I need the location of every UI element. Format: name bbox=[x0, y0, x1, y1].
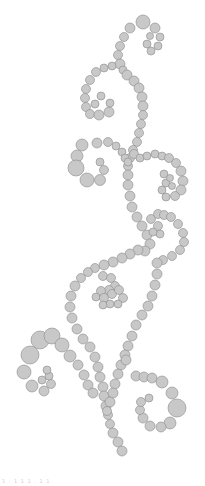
rhinestone-dot bbox=[80, 173, 94, 187]
rhinestone-dot bbox=[117, 253, 127, 263]
rhinestone-dot bbox=[88, 388, 98, 398]
rhinestone-dot bbox=[176, 246, 185, 255]
rhinestone-dot bbox=[105, 397, 115, 407]
rhinestone-dot bbox=[139, 111, 148, 120]
rhinestone-dot bbox=[152, 258, 162, 268]
rhinestone-dot bbox=[90, 352, 100, 362]
rhinestone-dot bbox=[167, 175, 174, 182]
rhinestone-dot bbox=[72, 324, 82, 334]
rhinestone-dot bbox=[143, 40, 151, 48]
rhinestone-dot bbox=[55, 338, 69, 352]
rhinestone-dot bbox=[17, 365, 31, 379]
rhinestone-dot bbox=[120, 33, 129, 42]
rhinestone-dot bbox=[96, 158, 104, 166]
rhinestone-dot bbox=[68, 160, 84, 176]
rhinestone-dot bbox=[127, 202, 137, 212]
rhinestone-dot bbox=[154, 42, 162, 50]
rhinestone-dot bbox=[99, 260, 109, 270]
rhinestone-dot bbox=[132, 212, 142, 222]
rhinestone-dot bbox=[97, 92, 105, 100]
rhinestone-dot bbox=[99, 301, 107, 309]
rhinestone-dot bbox=[169, 183, 176, 190]
rhinestone-dot bbox=[176, 166, 186, 176]
rhinestone-dot bbox=[64, 350, 76, 362]
rhinestone-dot bbox=[108, 257, 118, 267]
rhinestone-dot bbox=[95, 372, 105, 382]
rhinestone-dot bbox=[138, 101, 148, 111]
rhinestone-dot bbox=[77, 274, 86, 283]
rhinestone-dot bbox=[98, 382, 108, 392]
rhinestone-dot bbox=[123, 170, 133, 180]
rhinestone-dot bbox=[73, 360, 83, 370]
rhinestone-dot bbox=[79, 370, 89, 380]
rhinestone-dot bbox=[134, 83, 144, 93]
rhinestone-dot bbox=[179, 229, 188, 238]
rhinestone-dot bbox=[78, 334, 88, 344]
rhinestone-dot bbox=[47, 380, 56, 389]
rhinestone-dot bbox=[174, 220, 183, 229]
rhinestone-dot bbox=[145, 394, 153, 402]
rhinestone-dot bbox=[135, 129, 144, 138]
rhinestone-dot bbox=[103, 407, 112, 416]
rhinestone-dot bbox=[94, 110, 104, 120]
rhinestone-dot bbox=[110, 379, 120, 389]
rhinestone-dot bbox=[86, 110, 95, 119]
rhinestone-dot bbox=[92, 68, 101, 77]
rhinestone-dot bbox=[114, 51, 123, 60]
rhinestone-dot bbox=[150, 280, 160, 290]
rhinestone-dot bbox=[125, 23, 135, 33]
rhinestone-dot bbox=[137, 120, 146, 129]
rhinestone-dot bbox=[147, 373, 157, 383]
rhinestone-dot bbox=[156, 422, 166, 432]
rhinestone-dot bbox=[136, 15, 150, 29]
rhinestone-dot bbox=[156, 376, 168, 388]
rhinestone-dot bbox=[76, 139, 88, 151]
rhinestone-dot bbox=[145, 421, 155, 431]
rhinestone-dot bbox=[137, 398, 146, 407]
rhinestone-circles bbox=[17, 15, 189, 456]
rhinestone-dot bbox=[137, 92, 147, 102]
rhinestone-dot bbox=[91, 100, 99, 108]
rhinestone-dot bbox=[150, 23, 160, 33]
rhinestone-dot bbox=[39, 386, 49, 396]
rhinestone-dot bbox=[180, 238, 189, 247]
rhinestone-dot bbox=[70, 281, 80, 291]
rhinestone-dot bbox=[100, 166, 109, 175]
rhinestone-dot bbox=[93, 362, 103, 372]
rhinestone-dot bbox=[137, 310, 147, 320]
rhinestone-dot bbox=[85, 342, 95, 352]
rhinestone-dot bbox=[82, 85, 91, 94]
rhinestone-dot bbox=[38, 376, 46, 384]
rhinestone-dot bbox=[108, 428, 118, 438]
rhinestone-dot bbox=[112, 142, 120, 150]
rhinestone-dot bbox=[100, 64, 108, 72]
rhinestone-dot bbox=[136, 406, 145, 415]
rhinestone-dot bbox=[67, 313, 77, 323]
rhinestone-dot bbox=[147, 33, 154, 40]
rhinestone-dot bbox=[95, 175, 106, 186]
rhinestone-dot bbox=[147, 47, 155, 55]
rhinestone-dot bbox=[114, 300, 122, 308]
rhinestone-dot bbox=[127, 331, 137, 341]
swirl-pattern-canvas bbox=[0, 0, 205, 486]
rhinestone-dot bbox=[66, 291, 76, 301]
rhinestone-dot bbox=[162, 193, 170, 201]
rhinestone-dot bbox=[137, 221, 147, 231]
rhinestone-dot bbox=[121, 355, 131, 365]
rhinestone-dot bbox=[92, 138, 102, 148]
rhinestone-dot bbox=[108, 388, 118, 398]
rhinestone-dot bbox=[123, 341, 133, 351]
rhinestone-dot bbox=[113, 437, 123, 447]
rhinestone-dot bbox=[171, 192, 180, 201]
rhinestone-dot bbox=[108, 62, 116, 70]
rhinestone-dot bbox=[124, 158, 132, 166]
rhinestone-dot bbox=[116, 42, 125, 51]
rhinestone-dot bbox=[104, 138, 113, 147]
rhinestone-dot bbox=[147, 291, 157, 301]
rhinestone-dot bbox=[26, 380, 38, 392]
rhinestone-dot bbox=[158, 186, 166, 194]
rhinestone-dot bbox=[133, 138, 142, 147]
rhinestone-dot bbox=[125, 191, 135, 201]
rhinestone-dot bbox=[99, 272, 108, 281]
rhinestone-dot bbox=[168, 252, 177, 261]
